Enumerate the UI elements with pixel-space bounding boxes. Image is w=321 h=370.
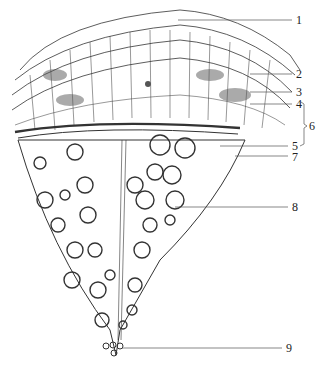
label-8: 8: [292, 201, 298, 213]
label-2: 2: [296, 68, 302, 80]
epidermis-outline: [20, 10, 300, 70]
cambium-band: [15, 124, 240, 132]
stem-cross-section-diagram: [0, 0, 321, 370]
label-4: 4: [296, 98, 302, 110]
label-6: 6: [309, 120, 315, 132]
label-1: 1: [296, 14, 302, 26]
label-9: 9: [286, 342, 292, 354]
label-7: 7: [292, 151, 298, 163]
xylem-wedge: [18, 140, 245, 355]
